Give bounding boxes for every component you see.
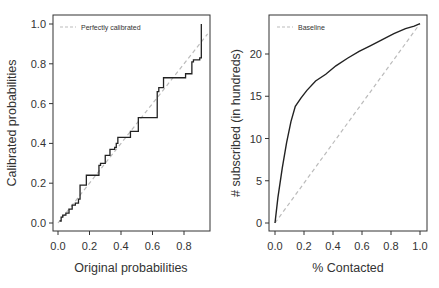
x-axis: 0.00.20.40.60.8 [50, 231, 191, 252]
y-tick-label: 10 [250, 133, 262, 145]
x-tick-label: 0.4 [325, 240, 340, 252]
y-axis-label: # subscribed (in hundreds) [229, 49, 243, 197]
x-tick-label: 0.0 [50, 240, 65, 252]
y-tick-label: 0.6 [31, 98, 46, 110]
legend: Perfectly calibrated [60, 24, 141, 32]
y-tick-label: 0.0 [31, 217, 46, 229]
legend-label: Baseline [298, 24, 325, 31]
y-tick-label: 0.4 [31, 137, 46, 149]
x-tick-label: 0.0 [267, 240, 282, 252]
figure: 0.00.20.40.60.81.0 0.00.20.40.60.8 Perfe… [0, 0, 439, 288]
x-tick-label: 1.0 [412, 240, 427, 252]
x-axis: 0.00.20.40.60.81.0 [267, 231, 427, 252]
x-tick-label: 0.2 [82, 240, 97, 252]
x-tick-label: 0.8 [383, 240, 398, 252]
y-tick-label: 0 [256, 217, 262, 229]
y-tick-label: 20 [250, 48, 262, 60]
baseline-line [275, 24, 420, 223]
calibration-plot: 0.00.20.40.60.81.0 0.00.20.40.60.8 Perfe… [5, 15, 210, 275]
legend: Baseline [277, 24, 325, 31]
y-tick-label: 15 [250, 90, 262, 102]
y-axis: 05101520 [250, 48, 269, 229]
x-tick-label: 0.6 [145, 240, 160, 252]
y-axis-label: Calibrated probabilities [5, 59, 19, 186]
y-tick-label: 0.2 [31, 177, 46, 189]
x-axis-label: % Contacted [312, 261, 384, 275]
x-axis-label: Original probabilities [74, 261, 187, 275]
legend-label: Perfectly calibrated [81, 24, 141, 32]
y-tick-label: 0.8 [31, 58, 46, 70]
x-tick-label: 0.6 [354, 240, 369, 252]
x-tick-label: 0.8 [176, 240, 191, 252]
x-tick-label: 0.4 [113, 240, 128, 252]
x-tick-label: 0.2 [296, 240, 311, 252]
y-tick-label: 1.0 [31, 18, 46, 30]
gains-plot: 05101520 0.00.20.40.60.81.0 Baseline % C… [229, 15, 428, 275]
y-tick-label: 5 [256, 175, 262, 187]
y-axis: 0.00.20.40.60.81.0 [31, 18, 53, 229]
calibration-curve [60, 24, 202, 221]
